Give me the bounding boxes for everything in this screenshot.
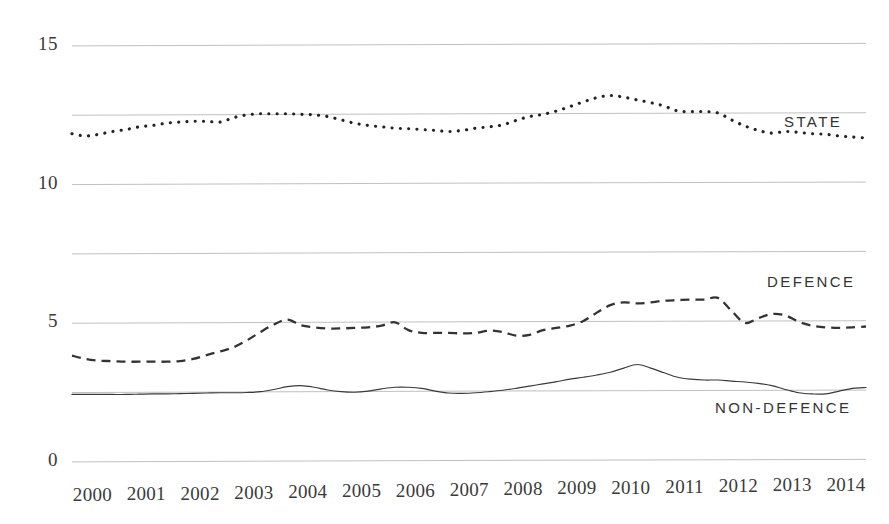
series-line-defence [72, 297, 866, 361]
x-tick-label: 2014 [819, 474, 873, 496]
gridline [72, 43, 866, 46]
x-tick-label: 2008 [496, 478, 550, 500]
x-tick-label: 2006 [388, 480, 442, 502]
series-label-defence: DEFENCE [767, 273, 855, 290]
x-tick-label: 2011 [658, 476, 712, 498]
x-tick-label: 2012 [711, 475, 765, 497]
y-tick-label: 0 [18, 449, 58, 471]
x-tick-label: 2005 [335, 480, 389, 502]
gridline [72, 459, 866, 462]
chart-plot-area [0, 0, 889, 524]
gridline [72, 251, 866, 254]
series-defence-path [72, 297, 866, 361]
series-non-defence-path [72, 364, 866, 394]
gridline [72, 390, 866, 393]
x-tick-label: 2003 [227, 482, 281, 504]
x-tick-label: 2001 [119, 483, 173, 505]
x-tick-label: 2004 [281, 481, 335, 503]
x-tick-label: 2010 [604, 477, 658, 499]
series-line-non-defence [72, 364, 866, 394]
gridline [72, 182, 866, 185]
series-label-state: STATE [784, 113, 842, 130]
x-tick-label: 2007 [442, 479, 496, 501]
x-tick-label: 2013 [765, 474, 819, 496]
y-tick-label: 10 [18, 172, 58, 194]
chart-container: 151050 200020012002200320042005200620072… [0, 0, 889, 524]
x-tick-label: 2002 [173, 483, 227, 505]
x-tick-label: 2000 [65, 484, 119, 506]
series-label-non-defence: NON-DEFENCE [715, 399, 851, 416]
series-line-state [72, 95, 866, 137]
gridline [72, 113, 866, 116]
x-tick-label: 2009 [550, 477, 604, 499]
y-tick-label: 5 [18, 310, 58, 332]
y-tick-label: 15 [18, 33, 58, 55]
series-state-path [72, 95, 866, 137]
